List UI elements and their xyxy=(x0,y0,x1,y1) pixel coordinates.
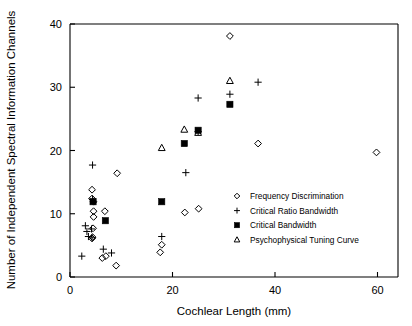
marker-open-diamond xyxy=(157,249,164,256)
plot-canvas: 0204060 010203040 Cochlear Length (mm) N… xyxy=(0,0,412,326)
x-tick-label: 60 xyxy=(371,284,383,296)
marker-open-diamond xyxy=(89,186,96,193)
marker-open-diamond xyxy=(373,149,380,156)
y-tick-label: 20 xyxy=(50,145,62,157)
marker-filled-square xyxy=(227,101,233,107)
marker-open-diamond xyxy=(181,209,188,216)
marker-open-triangle xyxy=(234,237,240,242)
marker-open-diamond xyxy=(158,241,165,248)
marker-open-triangle xyxy=(226,77,233,83)
legend-marker-open-triangle xyxy=(234,237,240,242)
y-axis-title: Number of Independent Spectral Informati… xyxy=(5,10,17,289)
marker-filled-square xyxy=(102,218,108,224)
marker-open-triangle xyxy=(181,126,188,132)
legend-marker-plus xyxy=(234,208,240,214)
marker-open-diamond xyxy=(195,205,202,212)
marker-filled-square xyxy=(181,140,187,146)
marker-open-diamond xyxy=(195,205,202,212)
legend-marker-open-diamond xyxy=(234,193,240,199)
marker-open-diamond xyxy=(90,225,97,232)
marker-open-diamond xyxy=(227,33,234,40)
y-axis-tick-labels: 010203040 xyxy=(50,18,62,283)
marker-plus xyxy=(89,161,96,168)
marker-plus xyxy=(82,222,89,229)
marker-filled-square xyxy=(234,223,239,228)
legend-marker-filled-square xyxy=(234,223,239,228)
marker-filled-square xyxy=(227,101,233,107)
x-axis-tick-labels: 0204060 xyxy=(67,284,384,296)
marker-filled-square xyxy=(102,218,108,224)
series-critical-ratio-bandwidth xyxy=(78,79,262,260)
series-critical-bandwidth xyxy=(90,101,233,224)
y-tick-label: 0 xyxy=(56,271,62,283)
series-psychophysical-tuning-curve xyxy=(158,77,233,150)
marker-open-diamond xyxy=(90,225,97,232)
marker-plus xyxy=(78,253,85,260)
marker-open-diamond xyxy=(114,170,121,177)
legend-label: Psychophysical Tuning Curve xyxy=(250,235,359,245)
y-axis-ticks xyxy=(70,24,75,277)
marker-plus xyxy=(195,94,202,101)
marker-open-diamond xyxy=(113,262,120,269)
marker-filled-square xyxy=(159,199,165,205)
x-tick-label: 40 xyxy=(269,284,281,296)
x-tick-label: 0 xyxy=(67,284,73,296)
marker-filled-square xyxy=(90,199,96,205)
marker-open-triangle xyxy=(226,77,233,83)
marker-plus xyxy=(100,246,107,253)
legend-label: Critical Bandwidth xyxy=(250,220,317,230)
marker-filled-square xyxy=(90,199,96,205)
marker-open-diamond xyxy=(158,241,165,248)
x-axis-title: Cochlear Length (mm) xyxy=(177,305,292,317)
marker-open-diamond xyxy=(373,149,380,156)
marker-open-diamond xyxy=(89,186,96,193)
marker-open-triangle xyxy=(181,126,188,132)
marker-open-diamond xyxy=(101,208,108,215)
y-tick-label: 40 xyxy=(50,18,62,30)
marker-filled-square xyxy=(159,199,165,205)
y-tick-label: 30 xyxy=(50,81,62,93)
series-frequency-discrimination xyxy=(89,33,380,269)
legend-label: Critical Ratio Bandwidth xyxy=(250,206,338,216)
data-point-layer xyxy=(78,33,380,269)
marker-plus xyxy=(158,233,165,240)
scatter-plot-figure: 0204060 010203040 Cochlear Length (mm) N… xyxy=(0,0,412,326)
marker-plus xyxy=(226,91,233,98)
x-axis-ticks xyxy=(70,272,378,277)
marker-open-diamond xyxy=(157,249,164,256)
x-tick-label: 20 xyxy=(166,284,178,296)
marker-open-diamond xyxy=(101,208,108,215)
marker-open-diamond xyxy=(114,170,121,177)
marker-open-diamond xyxy=(255,140,262,147)
marker-open-diamond xyxy=(181,209,188,216)
legend-label: Frequency Discrimination xyxy=(250,191,344,201)
marker-plus xyxy=(182,169,189,176)
marker-open-triangle xyxy=(158,144,165,150)
marker-open-diamond xyxy=(255,140,262,147)
marker-open-diamond xyxy=(227,33,234,40)
marker-open-triangle xyxy=(158,144,165,150)
y-tick-label: 10 xyxy=(50,208,62,220)
marker-open-diamond xyxy=(234,193,240,199)
legend: Frequency DiscriminationCritical Ratio B… xyxy=(234,191,359,245)
marker-open-diamond xyxy=(113,262,120,269)
marker-filled-square xyxy=(181,140,187,146)
marker-plus xyxy=(254,79,261,86)
